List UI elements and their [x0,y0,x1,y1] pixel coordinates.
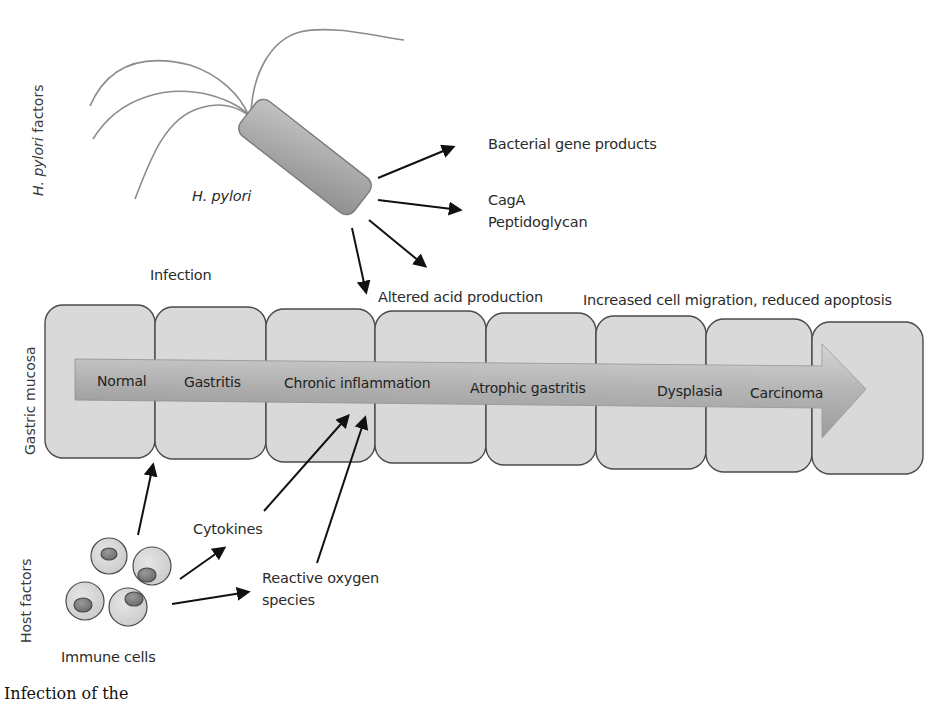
immune-cells-label: Immune cells [61,649,156,665]
pathogen-factors-label: H. pylori factors [30,85,46,196]
stage-dysplasia: Dysplasia [657,383,723,399]
cytokines-label: Cytokines [193,521,263,537]
stage-normal: Normal [97,373,146,389]
stage-carcinoma: Carcinoma [750,385,823,401]
immune-cells [66,538,171,626]
stage-chronic-inflammation: Chronic inflammation [284,375,430,391]
bacterium-body [235,95,376,218]
ros-label-line1: Reactive oxygen [262,570,379,586]
stage-gastritis: Gastritis [184,374,241,390]
pathogen-name: H. pylori [30,137,46,196]
stage-atrophic-gastritis: Atrophic gastritis [470,380,586,396]
ros-label-line2: species [262,592,315,608]
figure-caption: Infection of the [4,684,128,703]
gastric-mucosa-label: Gastric mucosa [22,346,38,455]
host-factors-label: Host factors [18,558,34,643]
cell-migration-label: Increased cell migration, reduced apopto… [583,292,892,308]
peptidoglycan-label: Peptidoglycan [488,214,587,230]
pathogen-factors-suffix: factors [30,85,46,138]
infection-label: Infection [150,267,211,283]
altered-acid-production-label: Altered acid production [378,289,543,305]
bacterium-product-arrows [352,147,460,292]
caga-label: CagA [488,192,525,208]
h-pylori-label: H. pylori [192,188,251,204]
bacterial-gene-products-label: Bacterial gene products [488,136,657,152]
